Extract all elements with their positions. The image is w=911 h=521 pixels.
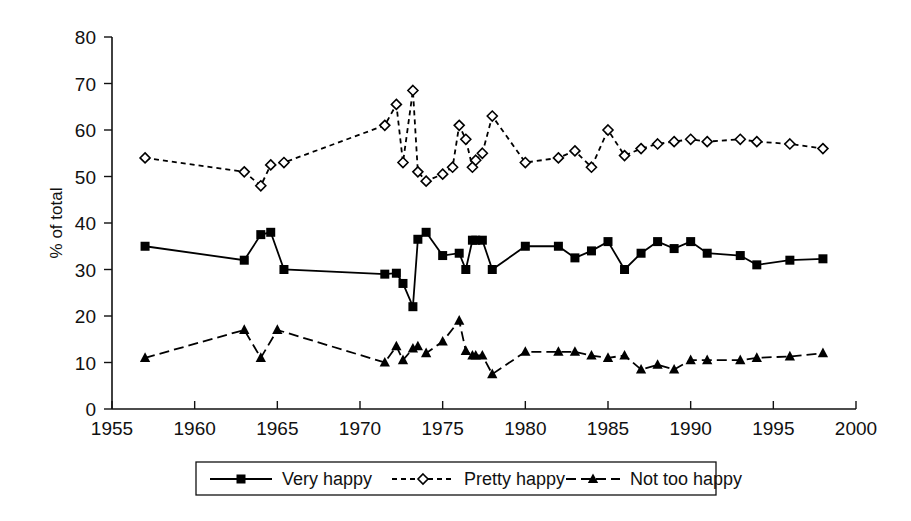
x-tick-label: 1955 (91, 418, 133, 439)
marker-square (488, 265, 497, 274)
marker-square (686, 237, 695, 246)
marker-square (240, 256, 249, 265)
marker-square (554, 242, 563, 251)
marker-square (620, 265, 629, 274)
marker-square (413, 235, 422, 244)
marker-square (455, 249, 464, 258)
marker-square (256, 230, 265, 239)
x-tick-label: 1985 (587, 418, 629, 439)
x-tick-label: 1960 (174, 418, 216, 439)
marker-square (266, 228, 275, 237)
legend-label: Very happy (282, 469, 372, 489)
chart-container: 01020304050607080 1955196019651970197519… (0, 0, 911, 521)
marker-square (818, 254, 827, 263)
x-tick-label: 1975 (422, 418, 464, 439)
y-axis-title: % of total (47, 188, 66, 259)
marker-square (653, 237, 662, 246)
marker-square (670, 244, 679, 253)
marker-square (478, 236, 487, 245)
marker-square (279, 265, 288, 274)
y-tick-label: 60 (75, 120, 96, 141)
marker-square (141, 242, 150, 251)
marker-square (785, 256, 794, 265)
marker-square (521, 242, 530, 251)
marker-square (438, 251, 447, 260)
y-tick-label: 30 (75, 260, 96, 281)
marker-square (570, 253, 579, 262)
marker-square (637, 249, 646, 258)
x-tick-label: 1980 (504, 418, 546, 439)
y-tick-label: 70 (75, 74, 96, 95)
y-tick-label: 50 (75, 167, 96, 188)
marker-square (752, 260, 761, 269)
x-tick-label: 1970 (339, 418, 381, 439)
legend-label: Pretty happy (464, 469, 565, 489)
y-tick-label: 20 (75, 306, 96, 327)
x-tick-label: 2000 (835, 418, 877, 439)
marker-square (422, 228, 431, 237)
marker-square (237, 475, 246, 484)
y-tick-label: 10 (75, 353, 96, 374)
y-tick-label: 0 (85, 399, 96, 420)
x-tick-label: 1995 (752, 418, 794, 439)
marker-square (398, 279, 407, 288)
y-tick-label: 80 (75, 27, 96, 48)
marker-square (461, 265, 470, 274)
legend-items: Very happyPretty happyNot too happy (210, 469, 742, 489)
marker-square (587, 246, 596, 255)
chart-background (0, 0, 911, 521)
marker-square (408, 302, 417, 311)
marker-square (604, 237, 613, 246)
x-tick-label: 1965 (256, 418, 298, 439)
marker-square (392, 269, 401, 278)
marker-square (703, 249, 712, 258)
marker-square (380, 270, 389, 279)
happiness-trend-chart: 01020304050607080 1955196019651970197519… (0, 0, 911, 521)
legend-label: Not too happy (630, 469, 742, 489)
marker-square (736, 251, 745, 260)
x-tick-label: 1990 (670, 418, 712, 439)
chart-legend: Very happyPretty happyNot too happy (196, 462, 742, 495)
y-tick-label: 40 (75, 213, 96, 234)
